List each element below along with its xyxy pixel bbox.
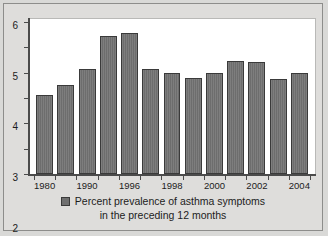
bar [185,78,202,174]
legend-entry: Percent prevalence of asthma symptoms [4,194,322,208]
y-axis-tick-label: 5 [12,72,18,82]
y-axis-tick: 0 [24,174,28,175]
bar [36,95,53,174]
bar [57,85,74,174]
x-axis-tick [183,176,184,180]
bar [164,73,181,174]
x-axis-tick-label: 1990 [76,181,97,191]
bar [79,69,96,174]
legend-label-line1: Percent prevalence of asthma symptoms [75,194,265,208]
y-axis-tick-label: 4 [12,122,18,132]
y-axis-tick: 1 [24,149,28,150]
x-axis-tick-label: 2000 [204,181,225,191]
y-axis-tick: 4 [24,73,28,74]
y-axis-tick: 6 [24,22,28,23]
y-axis-tick-label: 2 [12,224,18,234]
y-axis-tick-label: 6 [12,21,18,31]
bar [248,62,265,174]
x-axis-tick-label: 2002 [246,181,267,191]
y-axis-line [28,18,30,176]
legend-label-line2: in the preceding 12 months [4,208,322,222]
chart-legend: Percent prevalence of asthma symptoms in… [4,194,322,222]
x-axis-tick [55,176,56,180]
bar [206,73,223,174]
bar [121,33,138,174]
y-axis-tick: 2 [24,123,28,124]
x-axis-tick-label: 1998 [161,181,182,191]
x-axis-tick [140,176,141,180]
chart-figure: 0123456 1980199019961998200020022004 Per… [3,3,323,231]
x-axis-tick [268,176,269,180]
y-axis-tick-label: 3 [12,173,18,183]
y-axis-tick: 3 [24,98,28,99]
legend-swatch-icon [61,197,70,206]
x-axis-tick [98,176,99,180]
x-axis-tick-label: 2004 [289,181,310,191]
bar [100,36,117,174]
y-axis-tick: 5 [24,47,28,48]
plot-wrapper: 0123456 1980199019961998200020022004 [28,18,316,176]
x-axis-tick [225,176,226,180]
bar [227,61,244,174]
x-axis-line [28,174,316,176]
x-axis-tick-label: 1980 [34,181,55,191]
x-axis-tick-label: 1996 [119,181,140,191]
bar [142,69,159,174]
x-axis-tick [310,176,311,180]
bar [270,79,287,174]
bar [291,73,308,174]
